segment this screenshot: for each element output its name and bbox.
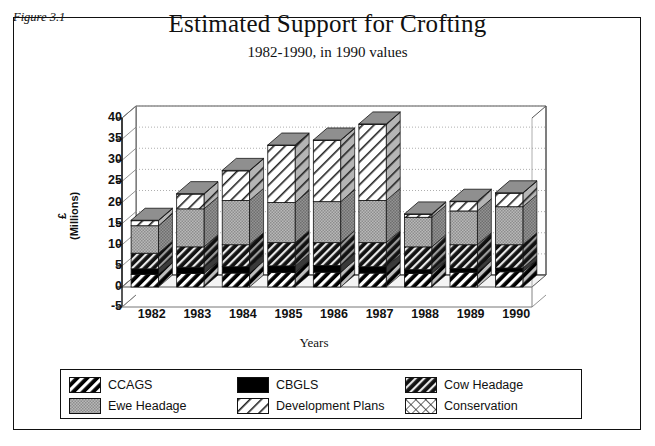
x-axis-title: Years bbox=[0, 335, 628, 351]
bar-1982 bbox=[131, 208, 172, 287]
chart-legend: CCAGS bbox=[60, 369, 582, 419]
x-tick-1990: 1990 bbox=[493, 307, 539, 321]
bar-1986 bbox=[313, 128, 354, 287]
plot-area: £ (Millions) 4035302520151050-5 bbox=[0, 0, 628, 360]
legend-row: Ewe Headage bbox=[69, 395, 573, 416]
legend-item-ewe-headage: Ewe Headage bbox=[69, 398, 237, 414]
x-tick-1988: 1988 bbox=[402, 307, 448, 321]
x-tick-1983: 1983 bbox=[174, 307, 220, 321]
legend-item-development-plans: Development Plans bbox=[237, 398, 405, 414]
legend-row: CCAGS bbox=[69, 374, 573, 395]
x-tick-1985: 1985 bbox=[265, 307, 311, 321]
legend-label-cow-headage: Cow Headage bbox=[444, 378, 523, 392]
bar-1990 bbox=[496, 181, 537, 287]
legend-label-development-plans: Development Plans bbox=[276, 399, 384, 413]
legend-swatch-ccags bbox=[69, 377, 101, 393]
x-tick-1987: 1987 bbox=[357, 307, 403, 321]
legend-item-cow-headage: Cow Headage bbox=[405, 377, 573, 393]
plot-svg bbox=[0, 0, 628, 360]
legend-label-ccags: CCAGS bbox=[108, 378, 152, 392]
legend-item-ccags: CCAGS bbox=[69, 377, 237, 393]
legend-label-conservation: Conservation bbox=[444, 399, 518, 413]
bar-1989 bbox=[450, 189, 491, 287]
legend-swatch-cbgls bbox=[237, 377, 269, 393]
bar-1987 bbox=[359, 112, 400, 287]
bar-1984 bbox=[222, 158, 263, 287]
bar-1988 bbox=[404, 202, 445, 287]
legend-label-ewe-headage: Ewe Headage bbox=[108, 399, 187, 413]
legend-swatch-conservation bbox=[405, 398, 437, 414]
legend-item-cbgls: CBGLS bbox=[237, 377, 405, 393]
bar-1985 bbox=[268, 133, 309, 287]
legend-swatch-cow-headage bbox=[405, 377, 437, 393]
x-tick-1984: 1984 bbox=[220, 307, 266, 321]
x-tick-1982: 1982 bbox=[129, 307, 175, 321]
legend-label-cbgls: CBGLS bbox=[276, 378, 318, 392]
x-tick-1986: 1986 bbox=[311, 307, 357, 321]
x-tick-1989: 1989 bbox=[448, 307, 494, 321]
legend-swatch-ewe-headage bbox=[69, 398, 101, 414]
legend-swatch-development-plans bbox=[237, 398, 269, 414]
bar-1983 bbox=[177, 182, 218, 287]
legend-item-conservation: Conservation bbox=[405, 398, 573, 414]
